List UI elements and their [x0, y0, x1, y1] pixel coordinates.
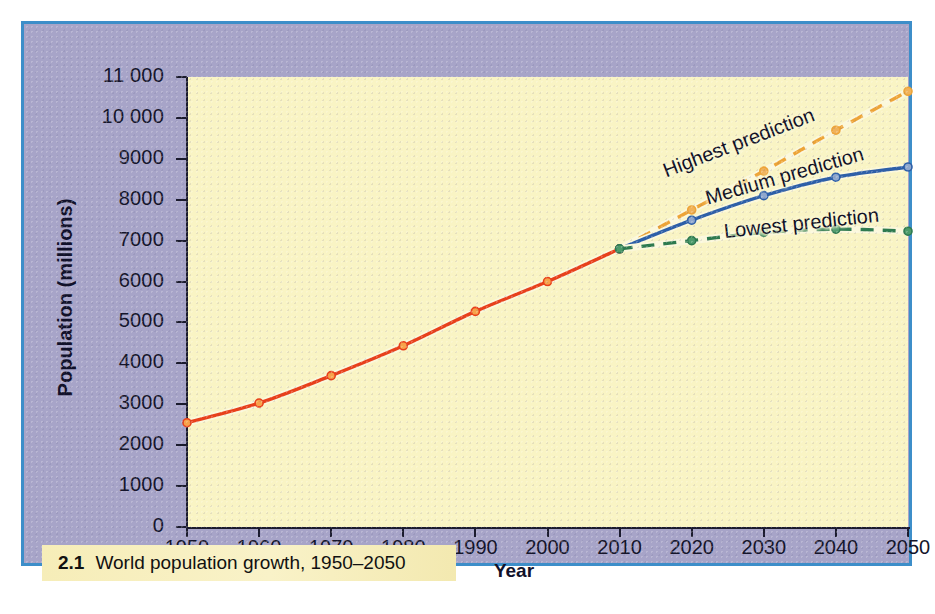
data-point [183, 419, 191, 427]
figure-root: 010002000300040005000600070008000900010 … [0, 0, 935, 614]
data-point [327, 372, 335, 380]
data-point [544, 278, 552, 286]
data-point [616, 245, 624, 253]
data-point [904, 227, 912, 235]
data-point [904, 163, 912, 171]
data-point [832, 126, 840, 134]
figure-caption: 2.1 World population growth, 1950–2050 [42, 545, 456, 581]
caption-text: World population growth, 1950–2050 [95, 552, 405, 574]
series-halo-0 [187, 249, 620, 423]
data-point [688, 237, 696, 245]
data-point [255, 399, 263, 407]
caption-number: 2.1 [58, 552, 84, 574]
data-point [832, 173, 840, 181]
chart-svg [24, 24, 915, 569]
data-point [688, 206, 696, 214]
data-point [471, 307, 479, 315]
figure-panel: 010002000300040005000600070008000900010 … [21, 21, 912, 566]
data-point [904, 87, 912, 95]
data-point [399, 342, 407, 350]
data-point [688, 216, 696, 224]
